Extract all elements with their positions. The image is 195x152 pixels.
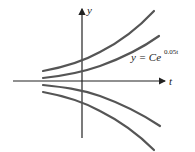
equation-exponent: 0.05t — [164, 48, 178, 56]
curve-c-large-negative — [43, 92, 154, 150]
exponential-family-diagram: y t y = Ce 0.05t — [0, 0, 195, 152]
y-axis-label: y — [86, 4, 92, 16]
equation-label: y = Ce — [130, 51, 161, 63]
curve-c-small-negative — [43, 85, 160, 126]
t-axis-label: t — [169, 75, 173, 87]
